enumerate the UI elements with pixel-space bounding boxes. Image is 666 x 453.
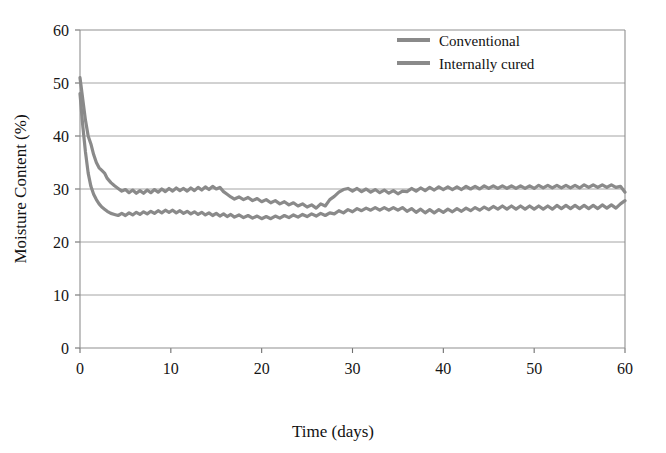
x-tick-label-40: 40 (435, 360, 451, 377)
y-tick-label-0: 0 (61, 340, 69, 357)
y-tick-label-60: 60 (53, 22, 69, 39)
y-tick-label-50: 50 (53, 75, 69, 92)
chart-canvas: 0102030405060 0102030405060 Time (days) … (0, 0, 666, 453)
y-tick-label-10: 10 (53, 287, 69, 304)
legend-label-0: Conventional (439, 33, 520, 49)
x-tick-label-50: 50 (526, 360, 542, 377)
x-tick-label-20: 20 (254, 360, 270, 377)
chart-background (0, 0, 666, 453)
legend-label-1: Internally cured (439, 56, 535, 72)
x-tick-label-0: 0 (76, 360, 84, 377)
x-tick-label-30: 30 (345, 360, 361, 377)
y-tick-label-30: 30 (53, 181, 69, 198)
x-tick-label-10: 10 (163, 360, 179, 377)
x-axis-title: Time (days) (292, 422, 374, 441)
y-tick-label-40: 40 (53, 128, 69, 145)
x-tick-label-60: 60 (617, 360, 633, 377)
y-tick-label-20: 20 (53, 234, 69, 251)
y-axis-title: Moisture Content (%) (11, 114, 30, 263)
moisture-content-chart: 0102030405060 0102030405060 Time (days) … (0, 0, 666, 453)
